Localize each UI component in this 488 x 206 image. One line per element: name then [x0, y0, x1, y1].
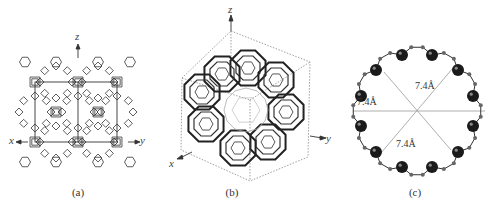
axis-label-x: x: [169, 157, 174, 169]
framework-projection-diagram: [0, 0, 160, 206]
distance-label-upper-right: 7.4Å: [415, 80, 435, 91]
distance-label-horizontal: 7.4Å: [357, 96, 377, 107]
panel-caption-b: (b): [217, 186, 247, 198]
panel-c: 7.4Å 7.4Å 7.4Å (c): [335, 0, 488, 206]
distance-label-lower: 7.4Å: [396, 138, 416, 149]
cage-3d-diagram: [160, 0, 335, 206]
panel-caption-c: (c): [400, 186, 430, 198]
axis-label-y: y: [140, 134, 145, 146]
panel-caption-a: (a): [63, 186, 93, 198]
axis-label-z: z: [75, 30, 79, 42]
panel-a: z x y (a): [0, 0, 160, 206]
axis-label-z: z: [228, 3, 232, 15]
axis-label-x: x: [9, 134, 14, 146]
panel-b: z x y (b): [160, 0, 335, 206]
axis-label-y: y: [326, 132, 331, 144]
